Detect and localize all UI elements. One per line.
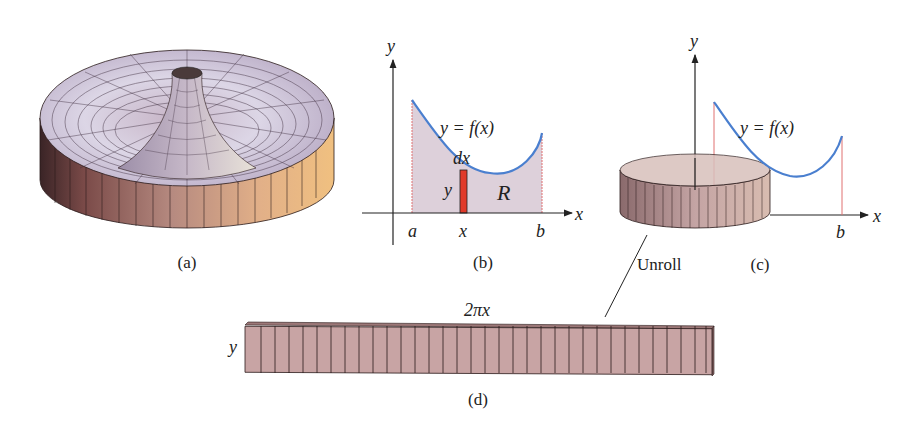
caption-c: (c) <box>751 255 770 274</box>
caption-a: (a) <box>178 253 197 272</box>
slab-height-label: y <box>227 337 237 357</box>
tick-label-x: x <box>458 221 467 241</box>
slab-width-label: 2πx <box>464 300 490 320</box>
region-R <box>412 100 542 213</box>
x-axis-label-c: x <box>872 206 881 226</box>
strip-dx <box>460 170 467 213</box>
curve-label-c: y = f(x) <box>738 118 794 139</box>
panel-c-shell <box>620 55 868 228</box>
unroll-pointer <box>605 235 647 317</box>
unroll-label: Unroll <box>637 255 682 274</box>
caption-d: (d) <box>468 390 488 409</box>
solid-center-hole <box>172 67 202 79</box>
strip-height-label: y <box>442 180 452 200</box>
y-axis-label-b: y <box>385 36 395 56</box>
dx-label: dx <box>453 148 470 168</box>
panel-d-slab <box>245 322 714 376</box>
curve-label-b: y = f(x) <box>438 118 494 139</box>
tick-label-b: b <box>536 221 545 241</box>
region-label: R <box>496 180 511 205</box>
panel-a-solid <box>40 50 334 228</box>
tick-label-b-c: b <box>836 222 845 242</box>
x-axis-label-b: x <box>574 204 583 224</box>
slab-front <box>245 326 712 374</box>
tick-label-a: a <box>408 221 417 241</box>
y-axis-label-c: y <box>688 31 698 51</box>
caption-b: (b) <box>473 253 493 272</box>
